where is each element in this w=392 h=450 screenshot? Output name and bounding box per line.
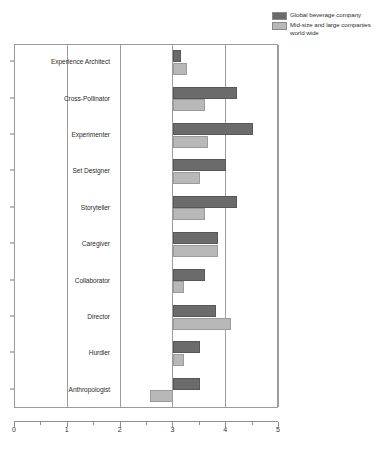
bar-1-0: [173, 63, 186, 75]
bar-0-2: [173, 123, 252, 135]
x-tick-minor-3: [199, 422, 200, 425]
bar-0-7: [173, 305, 215, 317]
x-tick-label-2: 2: [118, 426, 122, 433]
bar-0-4: [173, 196, 236, 208]
bar-0-3: [173, 159, 226, 171]
category-label-2: Experimenter: [71, 131, 110, 138]
bar-0-8: [173, 341, 199, 353]
bar-1-3: [173, 172, 199, 184]
category-tick-6: [10, 279, 14, 280]
category-label-7: Director: [87, 313, 110, 320]
bar-1-7: [173, 318, 231, 330]
x-tick-label-3: 3: [170, 426, 174, 433]
bar-1-8: [173, 354, 184, 366]
category-label-0: Experience Architect: [51, 58, 110, 65]
category-tick-4: [10, 206, 14, 207]
bar-1-5: [173, 245, 218, 257]
category-tick-7: [10, 316, 14, 317]
category-label-6: Collaborator: [75, 276, 110, 283]
category-tick-3: [10, 170, 14, 171]
category-label-8: Hurdler: [89, 349, 110, 356]
legend-item-1: Mid-size and large companies world wide: [272, 21, 390, 36]
x-tick-minor-1: [93, 422, 94, 425]
category-label-1: Cross-Pollinator: [64, 94, 110, 101]
legend-swatch-icon: [272, 22, 287, 30]
legend-swatch-icon: [272, 12, 287, 20]
bar-chart: Global beverage company Mid-size and lar…: [0, 0, 392, 450]
x-tick-label-5: 5: [276, 426, 280, 433]
legend-label: Global beverage company: [290, 11, 361, 19]
bar-1-1: [173, 99, 205, 111]
x-tick-minor-0: [40, 422, 41, 425]
x-tick-label-0: 0: [12, 426, 16, 433]
category-tick-8: [10, 352, 14, 353]
bar-1-6: [173, 281, 184, 293]
x-tick-minor-2: [146, 422, 147, 425]
bar-0-9: [173, 378, 199, 390]
category-label-5: Caregiver: [82, 240, 110, 247]
gridline: [278, 45, 279, 407]
bar-1-2: [173, 136, 207, 148]
bar-1-9: [150, 390, 174, 402]
x-tick-label-4: 4: [223, 426, 227, 433]
legend-label: Mid-size and large companies: [290, 21, 371, 29]
category-tick-5: [10, 243, 14, 244]
bars-layer: [15, 45, 277, 407]
category-tick-2: [10, 134, 14, 135]
plot-area: [14, 44, 278, 408]
bar-0-5: [173, 232, 218, 244]
x-tick-label-1: 1: [65, 426, 69, 433]
category-label-4: Storyteller: [81, 203, 110, 210]
category-label-9: Anthropologist: [69, 385, 110, 392]
legend-label-group: Mid-size and large companies world wide: [290, 21, 371, 36]
category-tick-9: [10, 388, 14, 389]
bar-0-0: [173, 50, 181, 62]
bar-0-6: [173, 269, 205, 281]
legend-label-line2: world wide: [290, 29, 371, 37]
bar-1-4: [173, 208, 205, 220]
bar-0-1: [173, 87, 236, 99]
category-tick-1: [10, 97, 14, 98]
category-tick-0: [10, 61, 14, 62]
x-tick-minor-4: [252, 422, 253, 425]
chart-legend: Global beverage company Mid-size and lar…: [272, 11, 390, 37]
legend-item-0: Global beverage company: [272, 11, 390, 20]
category-label-3: Set Designer: [72, 167, 110, 174]
